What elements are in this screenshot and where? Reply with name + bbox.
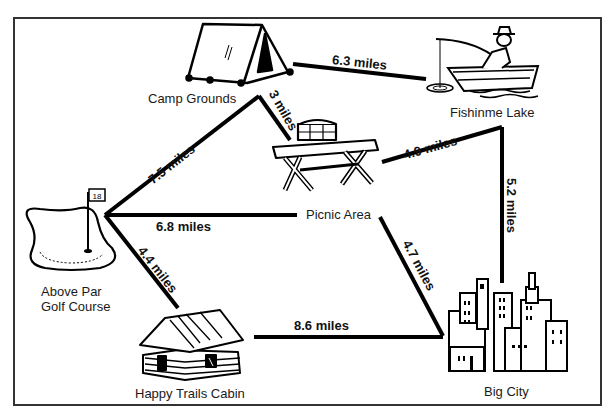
fishing-boat-icon <box>427 27 538 98</box>
label-camp-grounds: Camp Grounds <box>148 92 236 106</box>
log-cabin-icon <box>140 310 243 380</box>
label-big-city: Big City <box>484 385 529 399</box>
label-picnic-area: Picnic Area <box>306 208 371 222</box>
label-fishinme-lake: Fishinme Lake <box>450 106 535 120</box>
label-happy-trails-cabin: Happy Trails Cabin <box>135 387 245 401</box>
distance-map: 18 <box>0 0 611 418</box>
distance-golf-picnic: 6.8 miles <box>156 220 211 234</box>
city-skyline-icon <box>449 273 567 371</box>
golf-flag-icon: 18 <box>27 189 115 270</box>
distance-cabin-city: 8.6 miles <box>294 319 349 333</box>
svg-text:18: 18 <box>93 192 102 201</box>
label-golf-line2: Golf Course <box>41 300 110 314</box>
distance-lake-city: 5.2 miles <box>504 178 518 233</box>
label-golf-line1: Above Par <box>41 285 102 299</box>
tent-icon <box>187 24 293 86</box>
